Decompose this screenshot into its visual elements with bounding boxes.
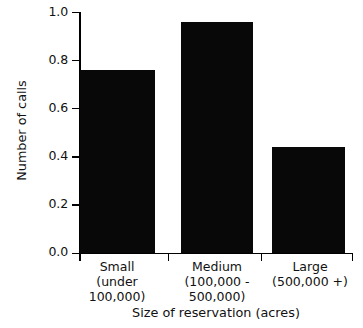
- y-tick-mark-5: [72, 204, 79, 206]
- y-tick-label-1: 1.0: [8, 6, 68, 19]
- x-category-sub-medium-1: (100,000 -: [167, 274, 267, 289]
- y-tick-mark-6: [72, 253, 79, 255]
- y-axis-title: Number of calls: [15, 61, 28, 201]
- y-tick-mark-3: [72, 108, 79, 110]
- x-category-label-large: Large (500,000 +): [262, 259, 358, 289]
- y-tick-mark-2: [72, 60, 79, 62]
- x-category-sub-small-2: 100,000): [76, 289, 158, 304]
- y-tick-label-3: 0.6: [8, 102, 68, 115]
- x-category-name-medium: Medium: [167, 259, 267, 274]
- y-tick-mark-4: [72, 156, 79, 158]
- bar-small: [80, 70, 155, 253]
- y-tick-mark-1: [72, 12, 79, 14]
- x-category-name-small: Small: [76, 259, 158, 274]
- bar-medium: [181, 22, 253, 253]
- x-category-name-large: Large: [262, 259, 358, 274]
- bar-chart-figure: Number of calls 1.0 0.8 0.6 0.4 0.2 0.0 …: [0, 0, 363, 328]
- x-category-sub-small-1: (under: [76, 274, 158, 289]
- x-category-sub-medium-2: 500,000): [167, 289, 267, 304]
- y-tick-label-4: 0.4: [8, 150, 68, 163]
- x-category-sub-large-1: (500,000 +): [262, 274, 358, 289]
- y-tick-label-2: 0.8: [8, 54, 68, 67]
- y-tick-label-5: 0.2: [8, 198, 68, 211]
- x-axis-title: Size of reservation (acres): [79, 306, 353, 319]
- x-category-label-medium: Medium (100,000 - 500,000): [167, 259, 267, 305]
- x-category-label-small: Small (under 100,000): [76, 259, 158, 305]
- bar-large: [272, 147, 345, 253]
- y-tick-label-6: 0.0: [8, 246, 68, 259]
